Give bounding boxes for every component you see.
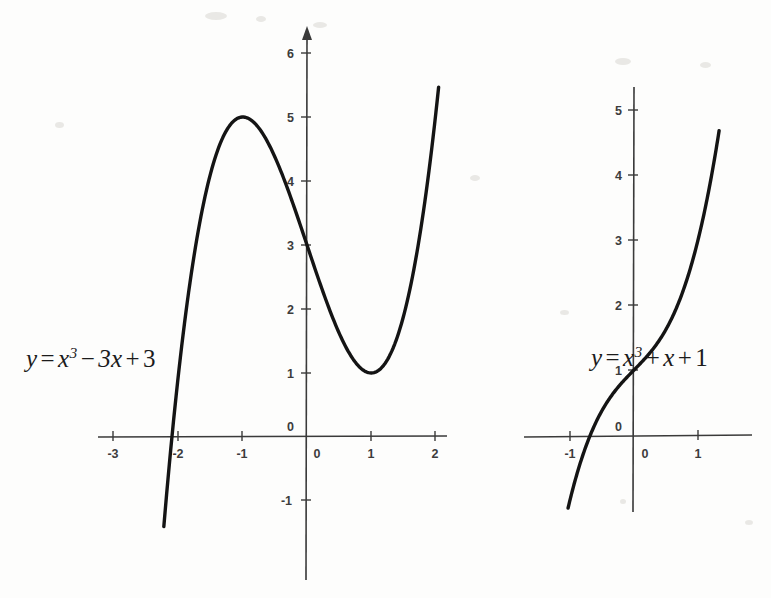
left-eq-term3: 3 — [143, 345, 156, 372]
left-plot-curve — [164, 87, 439, 526]
left-plot-xtick-label: 0 — [314, 447, 321, 461]
right-plot-ytick-label: 4 — [615, 169, 622, 183]
left-plot-ytick-label: 6 — [287, 47, 294, 61]
right-eq-exponent: 3 — [635, 343, 643, 360]
right-eq-term2: x — [663, 344, 675, 371]
left-eq-term2: 3x — [98, 345, 122, 372]
left-plot-xtick-label: 2 — [432, 447, 439, 461]
left-eq-term3-op: + — [123, 345, 144, 372]
right-plot-y-axis — [633, 87, 634, 512]
right-plot-xtick-label: -1 — [564, 447, 575, 461]
right-eq-term3: 1 — [695, 344, 708, 371]
right-plot-equation-label: y=x3+x+1 — [591, 344, 708, 372]
right-eq-var: x — [623, 344, 635, 371]
right-eq-term2-op: + — [643, 344, 664, 371]
right-eq-equals: = — [603, 344, 624, 371]
left-plot-xtick-label: 1 — [368, 447, 375, 461]
left-plot-ytick-label: 0 — [287, 420, 294, 434]
left-plot-ytick-label: 1 — [287, 367, 294, 381]
right-plot-xtick-label: 1 — [695, 447, 702, 461]
left-eq-exponent: 3 — [70, 344, 78, 361]
left-plot-x-axis — [98, 436, 447, 437]
left-eq-term2-op: − — [78, 345, 99, 372]
right-plot-xtick-label: 0 — [642, 447, 649, 461]
right-eq-term3-op: + — [675, 344, 696, 371]
left-eq-lhs: y — [26, 345, 38, 372]
left-plot-xtick-label: -2 — [172, 447, 183, 461]
left-eq-var: x — [58, 345, 70, 372]
right-plot-ytick-label: 2 — [615, 299, 622, 313]
plots-svg: -3 -2 -1 0 1 2 -1 0 1 2 3 4 5 6 — [0, 0, 771, 598]
left-plot-y-axis-arrow-icon — [302, 26, 312, 40]
left-plot-ytick-label: 5 — [287, 111, 294, 125]
left-plot-equation-label: y=x3−3x+3 — [26, 345, 156, 373]
right-plot-ytick-label: 5 — [615, 104, 622, 118]
right-eq-lhs: y — [591, 344, 603, 371]
left-plot-xtick-label: -1 — [236, 447, 247, 461]
right-plot-group: -1 0 1 0 1 2 3 4 5 — [524, 87, 752, 512]
left-plot-ytick-label: 3 — [287, 239, 294, 253]
left-plot-ytick-label: 2 — [287, 303, 294, 317]
right-plot-ytick-label: 3 — [615, 234, 622, 248]
figure-canvas: -3 -2 -1 0 1 2 -1 0 1 2 3 4 5 6 — [0, 0, 771, 598]
left-plot-group: -3 -2 -1 0 1 2 -1 0 1 2 3 4 5 6 — [98, 26, 447, 580]
left-eq-equals: = — [38, 345, 59, 372]
left-plot-xtick-label: -3 — [107, 447, 118, 461]
left-plot-ytick-label: -1 — [281, 494, 292, 508]
right-plot-ytick-label: 0 — [615, 420, 622, 434]
right-plot-x-axis — [524, 435, 752, 437]
